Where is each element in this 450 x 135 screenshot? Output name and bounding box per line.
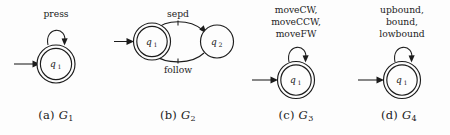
entry-arrowhead-c [271, 77, 279, 84]
state-label-q1-b: q [146, 37, 152, 47]
state-label-q1-a: q [50, 59, 56, 69]
caption-machine-sub-d: 4 [412, 114, 417, 123]
state-inner-circle-d [387, 65, 417, 95]
caption-machine-sub-a: 1 [68, 114, 73, 123]
state-circle-q2-b [201, 25, 234, 58]
caption-d: (d) G4 [348, 108, 450, 123]
caption-a: (a) G1 [0, 108, 112, 123]
state-sub-q1-a: 1 [57, 63, 61, 70]
automaton-diagram-c: moveCW, moveCCW, moveFW q 1 [244, 0, 348, 108]
event-label-movefw: moveFW [276, 28, 317, 39]
state-sub-q2-b: 2 [218, 41, 222, 48]
automaton-diagram-a: press q 1 [0, 0, 112, 108]
state-label-q1-c: q [290, 75, 296, 85]
caption-machine-name-b: G [181, 108, 190, 122]
state-label-q1-d: q [396, 75, 402, 85]
state-sub-q1-d: 1 [403, 79, 407, 86]
self-loop-arc-c [289, 47, 306, 62]
event-label-movecw: moveCW, [275, 4, 318, 15]
automaton-panel-c: moveCW, moveCCW, moveFW q 1 (c) G3 [244, 0, 348, 135]
event-label-bound: bound, [386, 16, 418, 27]
event-label-lowbound: lowbound [379, 28, 425, 39]
caption-machine-sub-b: 2 [191, 114, 196, 123]
automaton-diagram-b: sepd follow q 1 q 2 [112, 0, 244, 108]
caption-prefix-c: (c) [279, 108, 295, 122]
event-label-press: press [43, 8, 68, 19]
automata-figure: press q 1 (a) G1 sepd follow [0, 0, 450, 135]
state-inner-circle-c [281, 65, 311, 95]
state-sub-q1-c: 1 [297, 79, 301, 86]
caption-b: (b) G2 [112, 108, 244, 123]
automaton-panel-b: sepd follow q 1 q 2 [112, 0, 244, 135]
self-loop-arrowhead-a [62, 38, 68, 45]
caption-prefix-d: (d) [381, 108, 398, 122]
entry-arrowhead-d [377, 77, 385, 84]
self-loop-arc-d [395, 47, 412, 62]
caption-machine-name-a: G [59, 108, 68, 122]
caption-c: (c) G3 [244, 108, 348, 123]
state-label-q2-b: q [211, 37, 217, 47]
event-label-moveccw: moveCCW, [271, 16, 321, 27]
caption-machine-name-c: G [298, 108, 307, 122]
caption-machine-sub-c: 3 [308, 114, 313, 123]
entry-arrowhead-b [127, 38, 135, 45]
caption-prefix-b: (b) [160, 108, 177, 122]
state-inner-circle-a [40, 48, 71, 79]
self-loop-arrowhead-d [409, 55, 415, 62]
automaton-diagram-d: upbound, bound, lowbound q 1 [348, 0, 450, 108]
caption-prefix-a: (a) [38, 108, 54, 122]
automaton-panel-d: upbound, bound, lowbound q 1 (d) G4 [348, 0, 450, 135]
caption-machine-name-d: G [402, 108, 411, 122]
event-label-follow: follow [164, 64, 192, 75]
self-loop-arc-a [48, 30, 65, 45]
automaton-panel-a: press q 1 (a) G1 [0, 0, 112, 135]
state-inner-circle-q1-b [137, 26, 167, 56]
state-sub-q1-b: 1 [153, 41, 157, 48]
event-label-upbound: upbound, [380, 4, 424, 15]
self-loop-arrowhead-c [303, 55, 309, 62]
event-label-sepd: sepd [167, 8, 189, 19]
